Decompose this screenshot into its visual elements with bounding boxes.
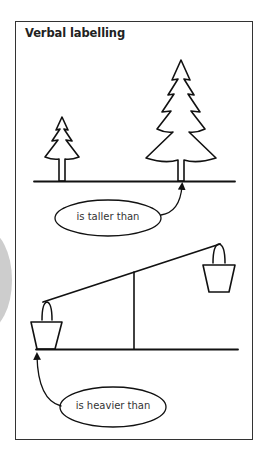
left-bucket-icon — [31, 302, 62, 349]
balance-scale-icon — [31, 244, 238, 350]
taller-than-arrow — [161, 186, 182, 215]
right-bucket-icon — [203, 244, 235, 292]
small-tree-icon — [45, 117, 79, 181]
taller-than-label: is taller than — [58, 211, 158, 222]
heavier-than-label: is heavier than — [63, 400, 163, 411]
heavier-than-arrow — [37, 356, 61, 406]
tall-tree-icon — [146, 60, 216, 181]
diagram-canvas — [0, 0, 270, 451]
